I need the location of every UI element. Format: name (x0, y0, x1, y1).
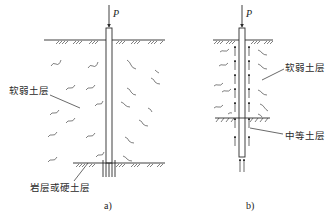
leader-rock-a (74, 163, 88, 181)
panel-b (213, 5, 284, 172)
pile-b (239, 28, 245, 157)
load-label-a: P (113, 9, 119, 19)
label-soft-soil-a: 软弱土层 (9, 86, 49, 96)
tip-bearing-arrows-b (240, 159, 244, 172)
label-rock-or-hard-soil-a: 岩层或硬土层 (30, 183, 90, 193)
label-soft-soil-b: 软弱土层 (285, 63, 325, 73)
soil-texture-a (48, 60, 160, 162)
leader-medium-soil-b (250, 128, 283, 134)
rock-hatch-a (76, 164, 163, 167)
caption-a: a) (104, 201, 112, 211)
pile-a (106, 28, 112, 163)
leader-soft-soil-b (262, 69, 284, 80)
panel-a (44, 5, 165, 181)
caption-b: b) (246, 201, 254, 211)
label-medium-soil-b: 中等土层 (285, 131, 325, 141)
leader-soft-soil-a (50, 95, 80, 108)
load-label-b: P (246, 9, 252, 19)
